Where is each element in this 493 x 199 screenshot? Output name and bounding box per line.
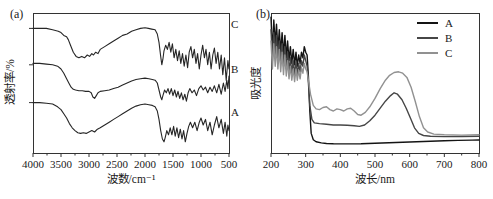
legend-item-c: C (417, 45, 453, 60)
curve-label-B: B (231, 63, 238, 75)
figure-spectra: 4000350030002500200015001000500 (a) 透射率/… (0, 0, 493, 199)
svg-text:3500: 3500 (50, 158, 73, 170)
svg-text:2000: 2000 (134, 158, 157, 170)
legend-line-swatch-b (417, 37, 438, 39)
panel-a-tag: (a) (10, 7, 23, 22)
curve-label-C: C (231, 18, 238, 30)
legend-label-b: B (445, 32, 452, 44)
svg-text:4000: 4000 (22, 158, 45, 170)
legend-line-swatch-a (417, 22, 438, 24)
panel-uvvis: 200300400500600700800 (b) 吸光度 波长/nm A B … (246, 0, 493, 199)
svg-text:400: 400 (332, 158, 349, 170)
legend-item-b: B (417, 30, 453, 45)
panel-b-tag: (b) (256, 7, 270, 22)
panel-b-y-axis-label: 吸光度 (248, 57, 264, 109)
svg-text:3000: 3000 (78, 158, 101, 170)
svg-text:600: 600 (401, 158, 418, 170)
svg-text:500: 500 (221, 158, 238, 170)
legend: A B C (417, 15, 453, 60)
svg-text:1500: 1500 (162, 158, 185, 170)
legend-label-a: A (445, 17, 453, 29)
panel-ftir: 4000350030002500200015001000500 (a) 透射率/… (0, 0, 246, 199)
svg-text:700: 700 (436, 158, 453, 170)
legend-item-a: A (417, 15, 453, 30)
legend-line-swatch-c (417, 52, 438, 54)
curve-label-A: A (231, 106, 239, 118)
svg-text:200: 200 (263, 158, 280, 170)
svg-text:1000: 1000 (190, 158, 213, 170)
svg-text:500: 500 (367, 158, 384, 170)
panel-a-x-axis-label: 波数/cm⁻¹ (33, 170, 229, 186)
legend-label-c: C (445, 47, 452, 59)
panel-a-y-axis-label: 透射率/% (2, 47, 18, 117)
panel-b-x-axis-label: 波长/nm (271, 170, 479, 186)
svg-text:300: 300 (297, 158, 314, 170)
svg-text:800: 800 (471, 158, 488, 170)
svg-text:2500: 2500 (106, 158, 129, 170)
